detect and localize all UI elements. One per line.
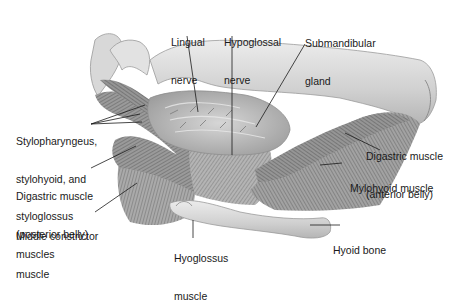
- label-line: Hypoglossal: [224, 36, 281, 49]
- label-hyoglossus: Hyoglossus muscle: [174, 227, 228, 304]
- label-line: nerve: [224, 74, 281, 87]
- label-line: nerve: [171, 74, 205, 87]
- label-line: Digastric muscle: [16, 190, 93, 203]
- label-submandibular-gland: Submandibular gland: [305, 12, 376, 112]
- label-line: Lingual: [171, 36, 205, 49]
- label-line: Middle constrictor: [16, 230, 98, 243]
- label-hypoglossal-nerve: Hypoglossal nerve: [224, 11, 281, 111]
- label-middle-constrictor: Middle constrictor muscle: [16, 205, 98, 304]
- label-line: Hyoglossus: [174, 252, 228, 265]
- label-line: gland: [305, 75, 376, 88]
- label-line: Hyoid bone: [333, 244, 386, 257]
- label-hyoid-bone: Hyoid bone: [333, 219, 386, 282]
- label-line: Stylopharyngeus,: [16, 135, 97, 148]
- label-line: Submandibular: [305, 37, 376, 50]
- label-lingual-nerve: Lingual nerve: [171, 11, 205, 111]
- label-line: Mylohyoid muscle: [350, 182, 433, 195]
- label-mylohyoid: Mylohyoid muscle: [350, 157, 433, 220]
- label-line: muscle: [16, 268, 98, 281]
- label-line: muscle: [174, 290, 228, 303]
